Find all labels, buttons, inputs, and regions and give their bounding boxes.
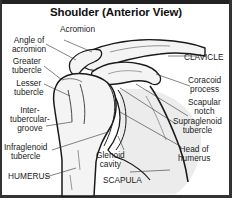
label-head-of-humerus: Head of humerus xyxy=(178,145,210,163)
label-glenoid-cavity: Glenoid cavity xyxy=(96,151,125,169)
label-scapula: SCAPULA xyxy=(103,176,142,185)
label-greater-tubercle: Greater tubercle xyxy=(12,57,42,75)
label-clavicle: CLAVICLE xyxy=(184,53,224,62)
label-infraglenoid-tubercle: Infraglenoid tubercle xyxy=(4,143,47,161)
label-coracoid-process: Coracoid process xyxy=(188,76,221,94)
label-humerus: HUMERUS xyxy=(8,172,50,181)
label-acromion: Acromion xyxy=(60,25,95,34)
label-angle-of-acromion: Angle of acromion xyxy=(12,36,46,54)
label-supraglenoid-tubercle: Supraglenoid tubercle xyxy=(173,117,222,135)
label-lesser-tubercle: Lesser tubercle xyxy=(14,79,44,97)
label-intertubercular-groove: Inter- tubercular- groove xyxy=(10,106,50,133)
label-scapular-notch: Scapular notch xyxy=(188,98,221,116)
shoulder-diagram: Shoulder (Anterior View) xyxy=(0,0,232,198)
